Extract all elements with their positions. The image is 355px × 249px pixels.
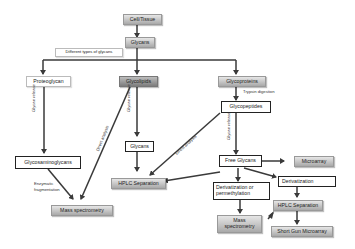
node-label: Glycans [131, 40, 150, 46]
node-glycoproteins: Glycoproteins [218, 76, 266, 87]
node-label: Derivatization or permethylation [216, 185, 269, 197]
note-label: Different types of glycans [66, 50, 113, 55]
node-mass-spectrometry-left: Mass spectrometry [51, 205, 113, 216]
node-free-glycans: Free Glycans [219, 155, 262, 167]
node-derivatization-or-permethylation: Derivatization or permethylation [213, 182, 270, 200]
node-glycosaminoglycans: Glycosaminoglycans [15, 156, 81, 169]
node-derivatization: Derivatization [278, 176, 336, 187]
label-fragmentation: fragmentation [34, 187, 60, 192]
node-label: HPLC Separation [118, 181, 158, 187]
node-label: Short Gun Microarray [277, 229, 327, 235]
node-label: Glycopeptides [230, 104, 263, 110]
node-cell-tissue: Cell/Tissue [123, 14, 162, 25]
node-glycans-top: Glycans [125, 37, 155, 48]
label-trypsin-digestion: Trypsin digestion [243, 89, 275, 94]
node-hplc-separation-left: HPLC Separation [111, 178, 166, 189]
node-label: Glycoproteins [226, 79, 258, 85]
node-label: Microarray [302, 159, 327, 165]
note-types-of-glycans: Different types of glycans [55, 48, 123, 57]
node-mass-spectrometry-right: Mass spectrometry [217, 215, 262, 233]
node-label: Glycosaminoglycans [24, 160, 72, 166]
node-label: Free Glycans [225, 158, 256, 164]
node-glycans-mid: Glycans [125, 141, 154, 152]
node-microarray: Microarray [294, 156, 334, 167]
label-glycan-release-glycolipids: Glycan release [126, 84, 131, 112]
node-glycolipids: Glycolipids [119, 76, 158, 87]
node-label: Derivatization [282, 179, 313, 185]
node-hplc-separation-right: HPLC Separation [273, 200, 323, 211]
node-label: Mass spectrometry [60, 208, 104, 214]
node-label: Cell/Tissue [130, 17, 155, 23]
node-label: HPLC Separation [278, 203, 318, 209]
label-enzymatic: Enzymatic [34, 181, 53, 186]
node-label: Proteoglycan [33, 79, 63, 85]
node-label: Mass spectrometry [218, 218, 261, 230]
node-shotgun-microarray: Short Gun Microarray [271, 226, 333, 237]
label-glycan-release-proteoglycan: Glycan release [31, 84, 36, 112]
label-glycan-release-glycopeptides: Glycan release [226, 112, 231, 140]
node-label: Glycans [130, 144, 149, 150]
